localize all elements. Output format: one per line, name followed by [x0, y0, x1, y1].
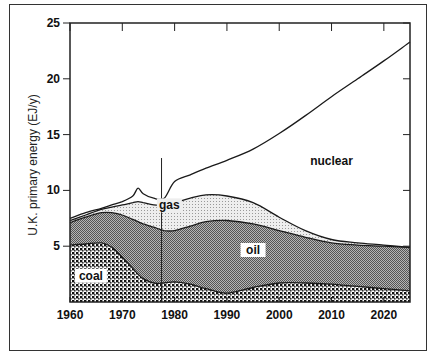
area-layers	[70, 42, 410, 302]
x-tick-label: 1980	[161, 308, 188, 322]
x-tick-label: 1960	[57, 308, 84, 322]
x-tick-label: 1970	[109, 308, 136, 322]
y-tick-label: 5	[53, 239, 60, 253]
y-axis-label: U.K. primary energy (EJ/y)	[26, 94, 40, 235]
y-tick-label: 15	[47, 128, 61, 142]
stacked-area-chart: 1960197019801990200020102020 510152025 c…	[0, 0, 436, 364]
x-tick-label: 2000	[266, 308, 293, 322]
y-tick-label: 10	[47, 183, 61, 197]
nuclear-label: nuclear	[310, 154, 353, 168]
y-tick-label: 20	[47, 72, 61, 86]
x-tick-label: 1990	[214, 308, 241, 322]
gas-label: gas	[159, 198, 180, 212]
x-tick-label: 2010	[318, 308, 345, 322]
oil-label: oil	[246, 243, 260, 257]
x-tick-label: 2020	[370, 308, 397, 322]
coal-label: coal	[79, 269, 103, 283]
y-tick-label: 25	[47, 16, 61, 30]
